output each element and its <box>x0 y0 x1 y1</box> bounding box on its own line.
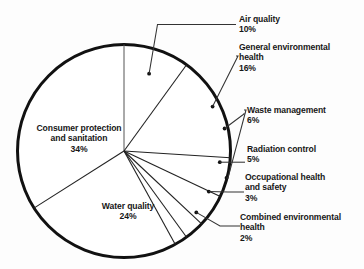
slice-label-water-quality: Water quality 24% <box>86 201 170 222</box>
slice-label-consumer-protection-value: 34% <box>24 144 134 154</box>
callout-general-environmental-health: General environmental health 16% <box>239 42 330 73</box>
callout-waste-management-name: Waste management <box>247 105 326 115</box>
slice-label-consumer-protection: Consumer protection and sanitation 34% <box>24 123 134 154</box>
slice-label-consumer-protection-line2: and sanitation <box>24 133 134 143</box>
callout-radiation-control-name: Radiation control <box>247 144 316 154</box>
slice-label-water-quality-line1: Water quality <box>86 201 170 211</box>
pie-chart-figure: Air quality 10% General environmental he… <box>0 0 364 269</box>
callout-occupational-health-name-line1: Occupational health <box>245 172 325 182</box>
callout-air-quality: Air quality 10% <box>239 14 280 35</box>
callout-general-environmental-health-value: 16% <box>239 63 330 73</box>
callout-general-environmental-health-name-line2: health <box>239 52 330 62</box>
slice-label-consumer-protection-line1: Consumer protection <box>24 123 134 133</box>
callout-occupational-health-name-line2: and safety <box>245 182 325 192</box>
slice-label-water-quality-value: 24% <box>86 211 170 221</box>
callout-general-environmental-health-name-line1: General environmental <box>239 42 330 52</box>
callout-radiation-control: Radiation control 5% <box>247 144 316 165</box>
callout-combined-environmental-health: Combined environmental health 2% <box>240 212 341 243</box>
callout-occupational-health-value: 3% <box>245 193 325 203</box>
callout-air-quality-name: Air quality <box>239 14 280 24</box>
callout-combined-environmental-health-name-line1: Combined environmental <box>240 212 341 222</box>
callout-occupational-health: Occupational health and safety 3% <box>245 172 325 203</box>
callout-radiation-control-value: 5% <box>247 154 316 164</box>
callout-combined-environmental-health-name-line2: health <box>240 222 341 232</box>
callout-air-quality-value: 10% <box>239 24 280 34</box>
leader-line-general-environmental-health <box>213 56 238 107</box>
callout-waste-management: Waste management 6% <box>247 105 326 126</box>
callout-combined-environmental-health-value: 2% <box>240 233 341 243</box>
callout-waste-management-value: 6% <box>247 115 326 125</box>
